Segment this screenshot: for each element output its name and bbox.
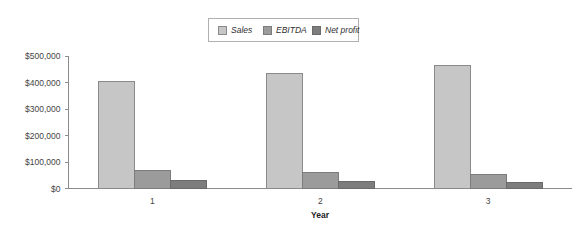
bar-net-profit-year-2 bbox=[338, 182, 374, 189]
bar-sales-year-3 bbox=[434, 65, 470, 188]
legend-swatch-sales bbox=[218, 26, 226, 34]
bar-ebitda-year-2 bbox=[302, 173, 338, 189]
y-axis-tick-label: $200,000 bbox=[25, 131, 61, 141]
x-axis-tick-label: 2 bbox=[318, 196, 323, 206]
y-axis-tick-label: $400,000 bbox=[25, 78, 61, 88]
chart-canvas: Sales EBITDA Net profit $0$100,000$200,0… bbox=[0, 0, 588, 236]
legend-swatch-ebitda bbox=[263, 26, 271, 34]
legend-label-ebitda: EBITDA bbox=[276, 25, 307, 35]
legend-label-sales: Sales bbox=[231, 25, 253, 35]
bar-sales-year-1 bbox=[98, 81, 134, 188]
y-axis-tick-label: $100,000 bbox=[25, 157, 61, 167]
y-axis-tick-label: $500,000 bbox=[25, 51, 61, 61]
x-axis-tick-label: 1 bbox=[150, 196, 155, 206]
bar-net-profit-year-3 bbox=[506, 183, 542, 189]
chart-legend: Sales EBITDA Net profit bbox=[209, 19, 361, 42]
bar-ebitda-year-1 bbox=[134, 170, 170, 188]
y-axis-tick-label: $0 bbox=[51, 184, 61, 194]
bar-chart-figure: Sales EBITDA Net profit $0$100,000$200,0… bbox=[0, 0, 588, 236]
x-axis-tick-label: 3 bbox=[486, 196, 491, 206]
legend-swatch-net-profit bbox=[312, 26, 320, 34]
bar-sales-year-2 bbox=[266, 73, 302, 188]
bar-ebitda-year-3 bbox=[470, 175, 506, 189]
legend-label-net-profit: Net profit bbox=[325, 25, 360, 35]
bar-net-profit-year-1 bbox=[170, 181, 206, 189]
x-axis-title: Year bbox=[311, 210, 330, 220]
y-axis-tick-label: $300,000 bbox=[25, 104, 61, 114]
